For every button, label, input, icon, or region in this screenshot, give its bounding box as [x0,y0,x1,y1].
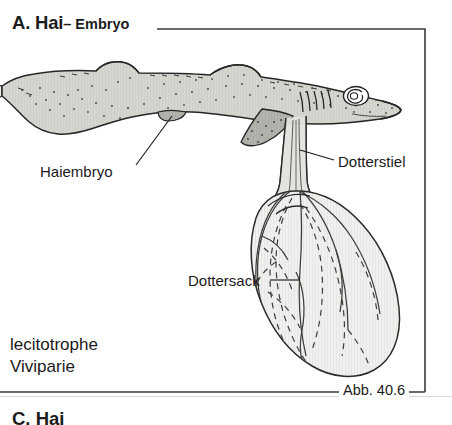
mode-caption-line-2: Viviparie [10,356,98,378]
figure-panel-hai-embryo: A. Hai– Embryo Haiembryo Dotterstiel Dot… [0,0,452,425]
mode-caption-line-1: lecitotrophe [10,334,98,356]
label-dotterstiel: Dotterstiel [338,154,406,170]
panel-subtitle: – Embryo [63,16,129,32]
figure-number: Abb. 40.6 [339,383,409,398]
yolk-sac [251,190,399,376]
pelvic-fin [158,111,186,122]
page-title: A. Hai– Embryo [12,13,129,32]
mode-caption: lecitotrophe Viviparie [10,334,98,379]
leader-haiembryo [136,116,172,165]
label-dottersack: Dottersack [188,273,260,289]
label-haiembryo: Haiembryo [40,164,113,180]
embryo-trunk [2,62,401,134]
shark-embryo-body [0,62,401,146]
eye [344,87,369,106]
next-section-title-partial: C. Hai [12,409,64,425]
panel-letter-title: A. Hai [12,12,63,33]
